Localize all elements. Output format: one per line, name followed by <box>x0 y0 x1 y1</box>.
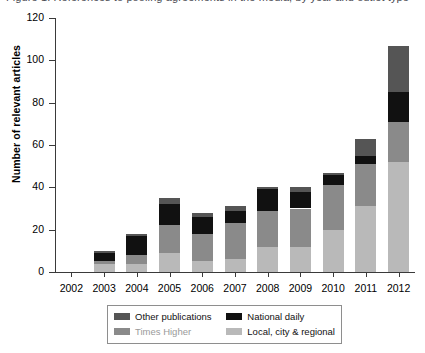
bar-segment <box>126 234 147 236</box>
bar-segment <box>290 187 311 191</box>
y-axis-line <box>55 18 56 272</box>
bar-segment <box>94 264 115 272</box>
y-tick-label: 80 <box>4 96 44 108</box>
y-tick-mark <box>49 103 55 104</box>
legend-item: Local, city & regional <box>226 326 335 337</box>
bar-segment <box>225 259 246 272</box>
x-tick-mark <box>137 272 138 277</box>
legend-label: Local, city & regional <box>247 326 335 337</box>
bar-segment <box>126 236 147 255</box>
chart-legend: Other publicationsNational dailyTimes Hi… <box>107 305 342 344</box>
legend-swatch <box>226 313 242 320</box>
bar-segment <box>323 230 344 272</box>
y-tick-mark <box>49 60 55 61</box>
bar-segment <box>388 92 409 122</box>
legend-swatch <box>114 313 130 320</box>
x-tick-mark <box>104 272 105 277</box>
bar-segment <box>323 175 344 186</box>
bar-segment <box>257 187 278 189</box>
y-tick-label: 120 <box>4 11 44 23</box>
legend-item: National daily <box>226 311 335 322</box>
x-tick-mark <box>170 272 171 277</box>
bar-chart: Figure 1. References to pooling agreemen… <box>0 0 425 353</box>
bar-segment <box>225 223 246 259</box>
bar-segment <box>126 255 147 263</box>
bar-segment <box>225 206 246 210</box>
bar-column <box>257 187 278 272</box>
bar-segment <box>192 217 213 234</box>
bar-segment <box>257 211 278 247</box>
bar-segment <box>159 253 180 272</box>
y-tick-mark <box>49 230 55 231</box>
bar-column <box>225 206 246 272</box>
bar-column <box>126 234 147 272</box>
bar-segment <box>94 251 115 253</box>
bar-segment <box>126 264 147 272</box>
bar-segment <box>355 156 376 164</box>
x-tick-mark <box>268 272 269 277</box>
y-tick-mark <box>49 187 55 188</box>
bar-segment <box>355 139 376 156</box>
bar-segment <box>355 206 376 272</box>
y-tick-label: 0 <box>4 265 44 277</box>
bar-column <box>290 187 311 272</box>
y-tick-label: 20 <box>4 223 44 235</box>
bar-segment <box>94 261 115 263</box>
y-tick-mark <box>49 18 55 19</box>
bar-column <box>192 213 213 272</box>
bar-segment <box>388 122 409 162</box>
legend-label: Times Higher <box>135 326 191 337</box>
bar-segment <box>257 189 278 210</box>
legend-item: Times Higher <box>114 326 220 337</box>
x-tick-mark <box>71 272 72 277</box>
bar-segment <box>192 213 213 217</box>
bar-segment <box>388 46 409 93</box>
x-tick-mark <box>366 272 367 277</box>
legend-label: Other publications <box>135 311 212 322</box>
bar-column <box>355 139 376 272</box>
x-tick-mark <box>333 272 334 277</box>
bar-segment <box>355 164 376 206</box>
x-tick-mark <box>202 272 203 277</box>
y-tick-mark <box>49 272 55 273</box>
bar-segment <box>290 209 311 247</box>
bar-segment <box>257 247 278 272</box>
bar-segment <box>192 234 213 262</box>
bar-segment <box>192 261 213 272</box>
bar-segment <box>290 192 311 209</box>
x-tick-mark <box>300 272 301 277</box>
x-tick-mark <box>235 272 236 277</box>
bar-segment <box>159 204 180 225</box>
x-tick-label: 2012 <box>379 282 419 294</box>
bar-segment <box>159 198 180 204</box>
bar-segment <box>94 253 115 261</box>
legend-swatch <box>114 328 130 335</box>
y-tick-label: 60 <box>4 138 44 150</box>
bar-column <box>159 198 180 272</box>
legend-label: National daily <box>247 311 304 322</box>
plot-area: Number of relevant articles 020406080100… <box>0 0 425 300</box>
bar-segment <box>225 211 246 224</box>
legend-swatch <box>226 328 242 335</box>
bar-segment <box>290 247 311 272</box>
y-tick-label: 40 <box>4 180 44 192</box>
bar-column <box>94 251 115 272</box>
x-tick-mark <box>399 272 400 277</box>
y-tick-label: 100 <box>4 53 44 65</box>
bar-column <box>388 46 409 272</box>
bar-segment <box>388 162 409 272</box>
bar-segment <box>159 225 180 253</box>
bar-segment <box>323 173 344 175</box>
y-tick-mark <box>49 145 55 146</box>
bar-segment <box>323 185 344 229</box>
legend-item: Other publications <box>114 311 220 322</box>
bar-column <box>323 173 344 272</box>
